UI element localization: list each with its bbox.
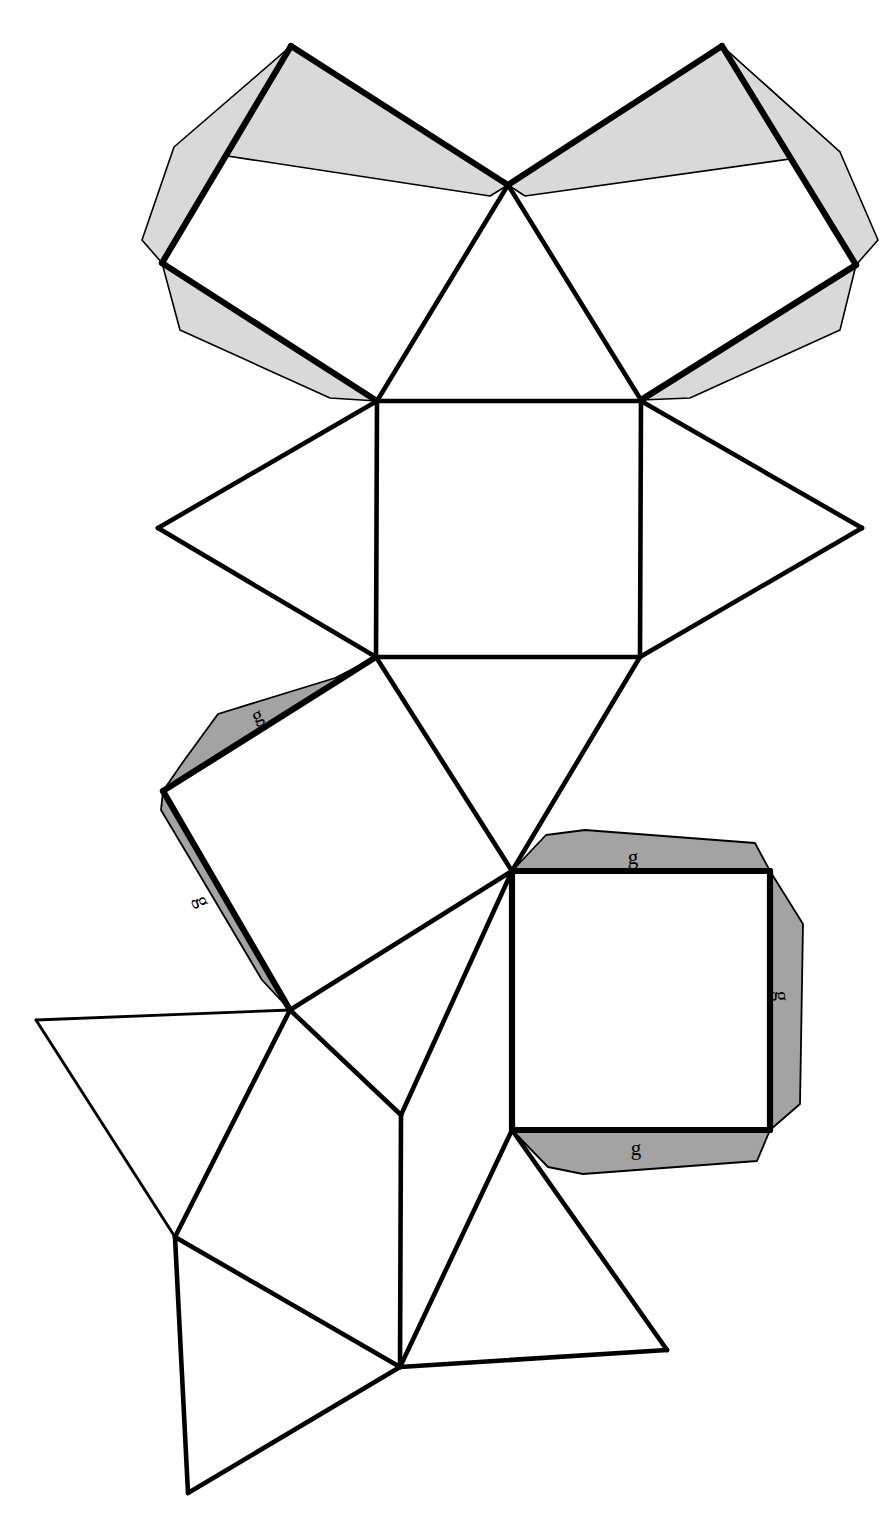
polyhedron-net-diagram: ggggg xyxy=(0,0,893,1539)
edge-center-square-right xyxy=(640,401,641,657)
net-figure-root: ggggg xyxy=(0,0,893,1539)
tab-label-right-square-right: g xyxy=(770,991,794,1002)
edge-lls-square-bottom xyxy=(400,1115,401,1367)
tab-label-right-square-bottom: g xyxy=(631,1136,642,1160)
edge-center-square-left xyxy=(376,401,377,657)
face-center-square xyxy=(376,401,641,657)
face-right-lower-square xyxy=(512,871,770,1130)
tab-label-right-square-top: g xyxy=(628,845,639,869)
